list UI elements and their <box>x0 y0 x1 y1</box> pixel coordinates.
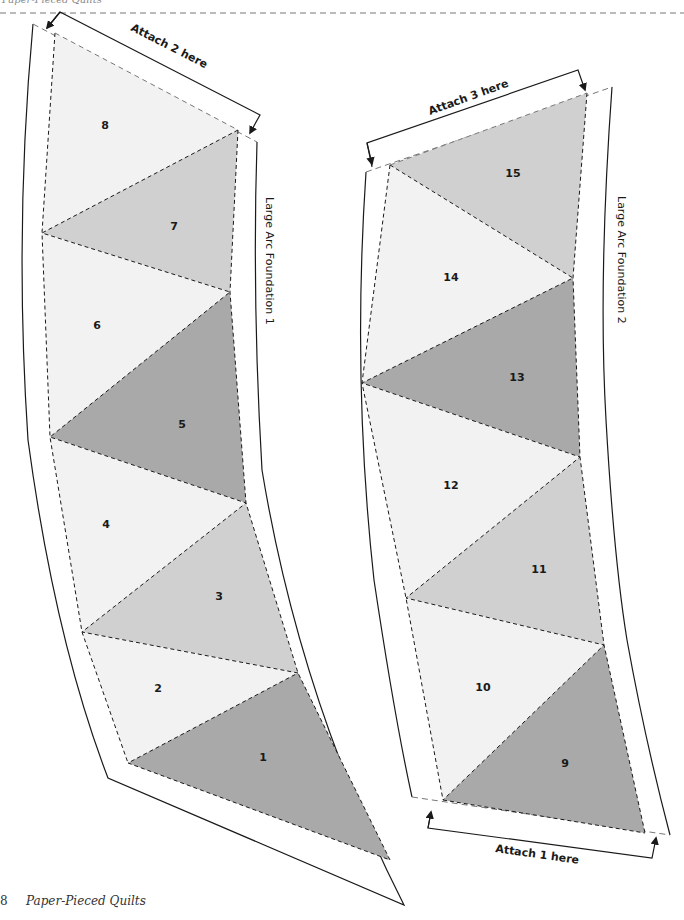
piece-number: 6 <box>93 319 101 332</box>
piece-number: 4 <box>102 518 110 531</box>
foundation-1-label: Large Arc Foundation 1 <box>263 197 276 325</box>
foundation-1: 8 7 6 5 4 3 2 1 Attach 2 here Large Arc … <box>22 12 404 905</box>
piece-number: 3 <box>215 590 223 603</box>
piece-number: 14 <box>443 271 459 284</box>
page-footer: 8Paper-Pieced Quilts <box>0 894 146 908</box>
pattern-page: 8 7 6 5 4 3 2 1 Attach 2 here Large Arc … <box>0 0 684 920</box>
piece-number: 5 <box>178 418 186 431</box>
piece-number: 9 <box>561 757 569 770</box>
piece-number: 13 <box>509 371 524 384</box>
attach-1-label: Attach 1 here <box>495 842 580 867</box>
piece-number: 11 <box>531 563 546 576</box>
piece-number: 7 <box>170 220 178 233</box>
piece-number: 15 <box>505 167 520 180</box>
attach-2-label: Attach 2 here <box>129 21 210 71</box>
piece-number: 12 <box>443 479 458 492</box>
book-title: Paper-Pieced Quilts <box>26 894 146 908</box>
piece-number: 1 <box>259 751 267 764</box>
foundation-2-label: Large Arc Foundation 2 <box>615 196 628 324</box>
foundation-2: 15 14 13 12 11 10 9 Attach 3 here Attach… <box>361 70 670 867</box>
page-number: 8 <box>0 894 26 908</box>
piece-number: 8 <box>101 119 109 132</box>
piece-number: 2 <box>154 682 162 695</box>
piece-number: 10 <box>475 681 491 694</box>
